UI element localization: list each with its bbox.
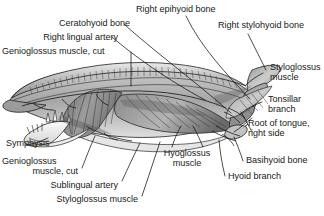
label-symphysis: Symphysis [6, 138, 76, 148]
label-right-lingual-artery: Right lingual artery [0, 32, 118, 42]
label-basihyoid-bone: Basihyoid bone [246, 155, 324, 165]
label-tonsillar-branch-line1: Tonsillar [268, 94, 324, 104]
label-tonsillar-branch-line2: branch [268, 104, 324, 114]
label-right-epihyoid-bone: Right epihyoid bone [136, 4, 248, 14]
label-genioglossus-muscle-cut-top: Genioglossus muscle, cut [2, 46, 142, 56]
label-hyoid-branch: Hyoid branch [228, 171, 308, 181]
label-root-of-tongue-line2: right side [248, 128, 324, 138]
label-styloglossus-muscle-right-line2: muscle [270, 72, 324, 82]
label-styloglossus-muscle-right-line1: Styloglossus [270, 62, 324, 72]
leader-right-stylohyoid [248, 34, 266, 70]
label-sublingual-artery: Sublingual artery [6, 180, 118, 190]
label-hyoglossus-muscle-line2: muscle [152, 158, 222, 168]
leader-basihyoid [234, 137, 243, 161]
label-hyoglossus-muscle-line1: Hyoglossus [152, 148, 222, 158]
label-root-of-tongue-line1: Root of tongue, [248, 118, 324, 128]
figure-canvas: Ceratohyoid bone Right lingual artery Ge… [0, 0, 324, 216]
label-styloglossus-muscle-bottom: Styloglossus muscle [6, 194, 138, 204]
label-ceratohyoid-bone: Ceratohyoid bone [0, 18, 130, 28]
label-genioglossus-muscle-cut-bottom-line1: Genioglossus [2, 156, 82, 166]
label-right-stylohyoid-bone: Right stylohyoid bone [218, 20, 324, 30]
label-genioglossus-muscle-cut-bottom-line2: muscle, cut [2, 166, 78, 176]
